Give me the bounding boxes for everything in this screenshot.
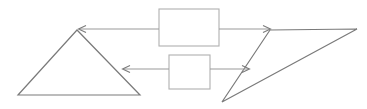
diagram-canvas	[0, 0, 367, 109]
diagram-svg	[0, 0, 367, 109]
left-triangle[interactable]	[18, 30, 140, 95]
upper-box[interactable]	[159, 9, 219, 46]
lower-box[interactable]	[169, 55, 210, 89]
